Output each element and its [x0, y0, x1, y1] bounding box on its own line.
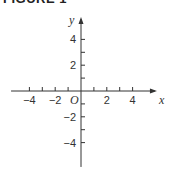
- y-axis-arrow-icon: [79, 17, 84, 24]
- y-tick-label: −4: [63, 137, 76, 149]
- x-axis-label: x: [158, 93, 165, 107]
- y-axis-label: y: [68, 13, 75, 27]
- x-axis-arrow-icon: [150, 89, 157, 94]
- x-tick-label: 2: [104, 94, 110, 106]
- x-tick-label: −4: [23, 94, 36, 106]
- x-tick-label: −2: [49, 94, 62, 106]
- x-ticks: −4−224: [23, 87, 136, 106]
- y-tick-label: 4: [70, 33, 76, 45]
- y-tick-label: 2: [70, 59, 76, 71]
- y-tick-label: −2: [63, 111, 76, 123]
- x-tick-label: 4: [130, 94, 136, 106]
- coordinate-plane: −4−224 42−2−4 x y O: [0, 0, 169, 171]
- origin-label: O: [70, 93, 79, 107]
